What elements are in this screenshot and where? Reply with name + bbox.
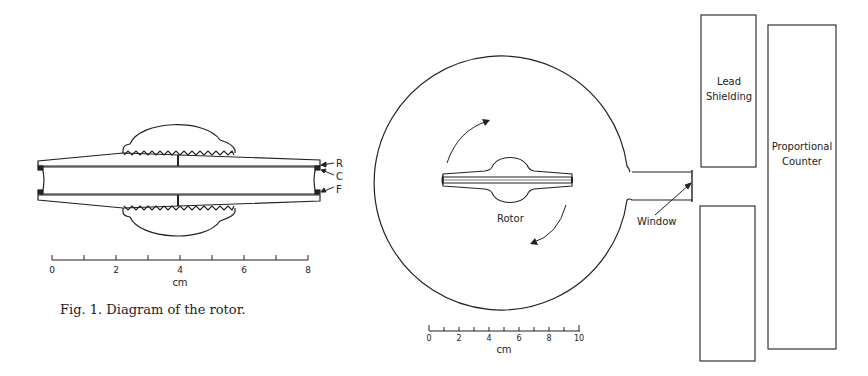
diagram-canvas: R C F 0 2 4 6 8 cm Fig. 1. Diagram of th… [0, 0, 868, 376]
label-f: F [336, 184, 342, 195]
svg-text:4: 4 [486, 334, 491, 343]
svg-text:4: 4 [177, 265, 183, 275]
svg-text:0: 0 [49, 265, 55, 275]
rcf-pointers [321, 162, 334, 192]
lead-shielding-label-2: Shielding [706, 91, 752, 102]
rotation-arrows [447, 121, 566, 243]
figure1-scale-labels: 0 2 4 6 8 cm [49, 265, 311, 288]
svg-text:10: 10 [574, 334, 584, 343]
window-label: Window [637, 216, 676, 227]
figure1-scale-bar [52, 255, 308, 260]
svg-text:2: 2 [456, 334, 461, 343]
rotor-cross-section [38, 125, 320, 236]
proportional-counter [768, 25, 836, 349]
lead-shielding-label-1: Lead [717, 76, 741, 87]
figure1-caption: Fig. 1. Diagram of the rotor. [60, 302, 246, 317]
svg-text:8: 8 [546, 334, 551, 343]
figure1-scale-unit: cm [172, 277, 187, 288]
proportional-counter-label-1: Proportional [772, 141, 833, 152]
svg-text:6: 6 [241, 265, 247, 275]
proportional-counter-label-2: Counter [782, 156, 823, 167]
svg-text:2: 2 [113, 265, 119, 275]
figure2-scale-bar [429, 325, 580, 331]
figure2-scale-labels: 0 2 4 6 8 10 cm [426, 334, 584, 355]
label-r: R [336, 158, 343, 169]
svg-text:6: 6 [516, 334, 521, 343]
rotor-top-view [442, 158, 572, 203]
window-pointer [655, 183, 691, 215]
svg-text:0: 0 [426, 334, 431, 343]
svg-text:8: 8 [305, 265, 311, 275]
label-c: C [336, 171, 343, 182]
figure2-scale-unit: cm [496, 344, 511, 355]
lead-shielding-lower [700, 206, 755, 361]
rotor-label: Rotor [497, 213, 525, 224]
